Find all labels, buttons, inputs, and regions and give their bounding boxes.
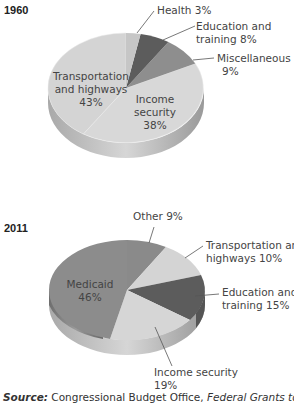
source-text: Congressional Budget Office, bbox=[48, 391, 207, 403]
label-misc-1960-line1: Miscellaneous bbox=[217, 52, 291, 65]
label-income-1960-line3: 38% bbox=[126, 119, 184, 132]
label-transportation-1960-line2: and highways bbox=[52, 83, 130, 96]
label-income-1960-line1: Income bbox=[126, 93, 184, 106]
label-education-2011-line2: training 15% bbox=[222, 299, 289, 312]
label-health-1960: Health 3% bbox=[157, 4, 211, 17]
chart-1960-title: 1960 bbox=[4, 4, 28, 16]
chart-2011-title: 2011 bbox=[4, 222, 28, 234]
label-transportation-1960-line1: Transportation bbox=[52, 70, 130, 83]
source-label: Source: bbox=[3, 391, 48, 403]
label-medicaid-2011-line1: Medicaid bbox=[60, 278, 120, 291]
source-title: Federal Grants to State bbox=[207, 391, 294, 403]
label-education-2011-line1: Education and bbox=[222, 286, 294, 299]
label-education-1960-line2: training 8% bbox=[196, 33, 257, 46]
label-misc-1960-line2: 9% bbox=[222, 65, 239, 78]
label-education-1960-line1: Education and bbox=[196, 20, 271, 33]
label-income-2011-line1: Income security bbox=[154, 366, 238, 379]
label-transportation-2011-line2: highways 10% bbox=[206, 252, 282, 265]
label-other-2011: Other 9% bbox=[133, 210, 183, 223]
label-medicaid-2011-line2: 46% bbox=[60, 291, 120, 304]
label-transportation-1960-line3: 43% bbox=[52, 96, 130, 109]
label-income-1960-line2: security bbox=[126, 106, 184, 119]
source-note: Source: Congressional Budget Office, Fed… bbox=[3, 391, 294, 403]
label-transportation-2011-line1: Transportation and bbox=[206, 239, 294, 252]
